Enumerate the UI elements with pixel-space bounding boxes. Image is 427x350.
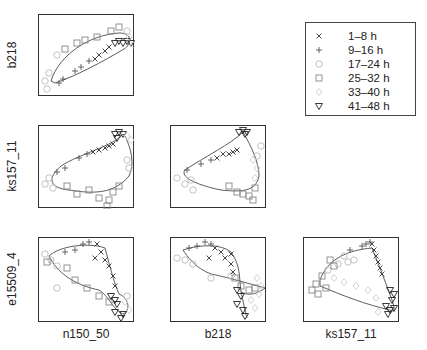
legend-item-17-24h: 17–24 h xyxy=(306,57,415,72)
legend-label: 25–32 h xyxy=(348,71,390,85)
legend-item-33-40h: 33–40 h xyxy=(306,85,415,100)
legend-item-25-32h: 25–32 h xyxy=(306,71,415,86)
scatter-panel-e15509-4-vs-b218 xyxy=(170,237,266,322)
x-axis-label-b218: b218 xyxy=(170,327,266,341)
scatter-plot xyxy=(171,238,267,323)
legend-item-1-8h: 1–8 h xyxy=(306,29,415,44)
plus-marker-icon xyxy=(312,43,326,57)
scatter-plot xyxy=(39,238,135,323)
legend-label: 9–16 h xyxy=(348,43,383,57)
triangle-down-marker-icon xyxy=(312,99,326,113)
legend: 1–8 h 9–16 h 17–24 h 25–32 h 33–40 h 41–… xyxy=(305,22,416,116)
x-marker-icon xyxy=(312,29,326,43)
x-axis-label-ks157-11: ks157_11 xyxy=(303,327,399,341)
scatter-panel-ks157-11-vs-b218 xyxy=(170,125,266,208)
scatter-plot xyxy=(304,238,400,323)
y-axis-label-ks157-11: ks157_11 xyxy=(5,121,19,211)
scatter-panel-ks157-11-vs-n150-50 xyxy=(38,125,134,208)
legend-label: 41–48 h xyxy=(348,99,390,113)
scatter-panel-e15509-4-vs-ks157-11 xyxy=(303,237,399,322)
legend-item-9-16h: 9–16 h xyxy=(306,43,415,58)
y-axis-label-b218: b218 xyxy=(5,10,19,100)
scatter-plot xyxy=(39,126,135,209)
scatter-plot xyxy=(39,15,135,97)
scatter-plot xyxy=(171,126,267,209)
scatter-panel-e15509-4-vs-n150-50 xyxy=(38,237,134,322)
circle-marker-icon xyxy=(312,57,326,71)
y-axis-label-e15509-4: e15509_4 xyxy=(5,234,19,324)
legend-label: 33–40 h xyxy=(348,85,390,99)
scatter-panel-b218-vs-n150-50 xyxy=(38,14,134,96)
legend-item-41-48h: 41–48 h xyxy=(306,99,415,114)
legend-label: 1–8 h xyxy=(348,29,377,43)
square-marker-icon xyxy=(312,71,326,85)
legend-label: 17–24 h xyxy=(348,57,390,71)
x-axis-label-n150-50: n150_50 xyxy=(38,327,134,341)
diamond-marker-icon xyxy=(312,85,326,99)
